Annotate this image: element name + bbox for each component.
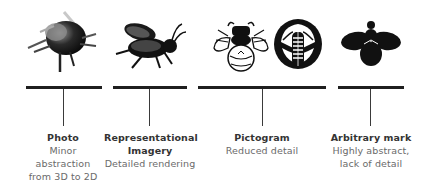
stage-desc-line: Reduced detail bbox=[217, 144, 307, 157]
stage-label-representational: Representational Imagery Detailed render… bbox=[104, 131, 196, 170]
stage-desc-line: lack of detail bbox=[325, 157, 417, 170]
bee-circle-emblem-icon bbox=[273, 18, 323, 70]
connector-representational bbox=[149, 89, 150, 126]
stage-label-arbitrary: Arbitrary mark Highly abstract, lack of … bbox=[325, 131, 417, 170]
stage-desc-line: Detailed rendering bbox=[104, 157, 196, 170]
bee-outline-icon bbox=[212, 18, 270, 74]
stage-desc-line: Highly abstract, bbox=[325, 144, 417, 157]
connector-arbitrary bbox=[370, 89, 371, 126]
stage-desc-line: Minor bbox=[23, 144, 103, 157]
stage-desc-line: from 3D to 2D bbox=[23, 170, 103, 182]
stage-label-pictogram: Pictogram Reduced detail bbox=[217, 131, 307, 157]
timeline-bar-arbitrary bbox=[338, 86, 404, 89]
timeline-bar-representational bbox=[113, 86, 187, 89]
stage-title-line2: Imagery bbox=[128, 145, 173, 156]
connector-pictogram bbox=[262, 89, 263, 126]
timeline-bar-photo bbox=[26, 86, 102, 89]
bee-illustration-icon bbox=[112, 20, 188, 72]
stage-title: Arbitrary mark bbox=[331, 132, 412, 143]
bee-photo-icon bbox=[24, 8, 104, 76]
stage-title: Pictogram bbox=[234, 132, 290, 143]
stage-title: Representational bbox=[104, 132, 198, 143]
stage-label-photo: Photo Minor abstraction from 3D to 2D bbox=[23, 131, 103, 182]
connector-photo bbox=[63, 89, 64, 126]
stage-desc-line: abstraction bbox=[23, 157, 103, 170]
stage-title: Photo bbox=[47, 132, 79, 143]
bee-silhouette-icon bbox=[340, 20, 402, 68]
